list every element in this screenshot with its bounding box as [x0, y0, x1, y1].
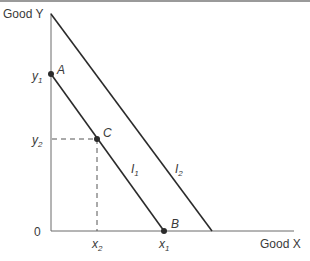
line-I1-label: I1: [131, 162, 139, 178]
point-B-label: B: [171, 217, 179, 231]
point-C-label: C: [103, 126, 112, 140]
line-I2-label: I2: [175, 162, 183, 178]
budget-line-diagram: Good Y Good X 0 y1 y2 x2 x1 A C B I1 I2: [0, 0, 310, 261]
origin-label: 0: [34, 225, 41, 239]
x-axis-label: Good X: [260, 237, 301, 251]
point-A-label: A: [56, 63, 65, 77]
tick-x2: x2: [91, 237, 103, 253]
line-I1: [51, 74, 164, 231]
line-I2: [51, 14, 212, 231]
tick-y2: y2: [31, 133, 43, 149]
y-axis-label: Good Y: [3, 7, 43, 21]
point-B-marker: [161, 228, 167, 234]
tick-x1: x1: [158, 237, 169, 253]
point-C-marker: [94, 136, 100, 142]
diagram-frame: Good Y Good X 0 y1 y2 x2 x1 A C B I1 I2: [0, 0, 310, 261]
tick-y1: y1: [31, 69, 42, 85]
point-A-marker: [48, 71, 54, 77]
